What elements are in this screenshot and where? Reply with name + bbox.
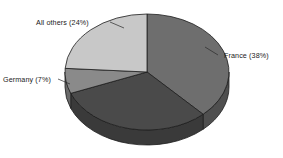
slice-label-germany: Germany (7%) (3, 75, 51, 84)
slice-label-france: France (38%) (224, 51, 269, 60)
pie-top-faces (65, 14, 229, 130)
slice-label-all-others: All others (24%) (36, 18, 89, 27)
pie-chart-figure: France (38%)Germany (7%)All others (24%) (0, 0, 283, 158)
pie-chart-canvas: France (38%)Germany (7%)All others (24%) (0, 0, 283, 158)
